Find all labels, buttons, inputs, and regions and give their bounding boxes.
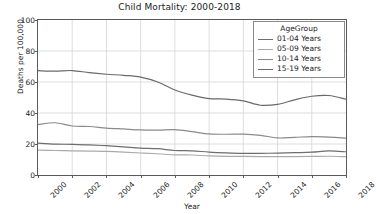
x-tick-label: 2002 — [83, 180, 103, 200]
y-tick-label: 20 — [25, 140, 35, 149]
x-tick-label: 2008 — [185, 180, 205, 200]
x-tick-mark — [312, 175, 313, 178]
legend-item[interactable]: 01-04 Years — [258, 34, 340, 44]
legend-label: 10-14 Years — [277, 54, 321, 64]
x-tick-label: 2016 — [322, 180, 342, 200]
legend-swatch-icon — [258, 59, 273, 60]
y-tick-label: 0 — [30, 171, 35, 180]
x-tick-mark — [72, 175, 73, 178]
legend-label: 05-09 Years — [277, 44, 321, 54]
x-tick-mark — [175, 175, 176, 178]
x-tick-label: 2018 — [357, 180, 376, 200]
legend-label: 01-04 Years — [277, 34, 321, 44]
x-tick-mark — [141, 175, 142, 178]
y-axis-label: Deaths per 100,000 — [16, 7, 25, 107]
x-tick-label: 2000 — [49, 180, 69, 200]
legend-items: 01-04 Years05-09 Years10-14 Years15-19 Y… — [258, 34, 340, 74]
legend-item[interactable]: 10-14 Years — [258, 54, 340, 64]
x-tick-mark — [38, 175, 39, 178]
x-tick-label: 2012 — [254, 180, 274, 200]
y-tick-label: 80 — [25, 47, 35, 56]
x-tick-mark — [209, 175, 210, 178]
x-axis-label: Year — [37, 202, 347, 211]
legend-item[interactable]: 05-09 Years — [258, 44, 340, 54]
legend-swatch-icon — [258, 69, 273, 70]
legend-swatch-icon — [258, 49, 273, 50]
y-tick-label: 60 — [25, 78, 35, 87]
legend: AgeGroup 01-04 Years05-09 Years10-14 Yea… — [253, 21, 345, 78]
x-tick-label: 2004 — [117, 180, 137, 200]
legend-swatch-icon — [258, 39, 273, 40]
x-tick-label: 2010 — [220, 180, 240, 200]
x-tick-mark — [243, 175, 244, 178]
series-line — [38, 143, 346, 153]
series-line — [38, 123, 346, 138]
x-tick-mark — [106, 175, 107, 178]
legend-item[interactable]: 15-19 Years — [258, 64, 340, 74]
x-tick-mark — [278, 175, 279, 178]
x-tick-label: 2006 — [151, 180, 171, 200]
y-tick-label: 40 — [25, 109, 35, 118]
x-tick-label: 2014 — [288, 180, 308, 200]
x-tick-mark — [346, 175, 347, 178]
legend-title: AgeGroup — [258, 24, 340, 33]
chart-title: Child Mortality: 2000-2018 — [0, 2, 359, 12]
legend-label: 15-19 Years — [277, 64, 321, 74]
y-tick-mark — [35, 20, 38, 21]
